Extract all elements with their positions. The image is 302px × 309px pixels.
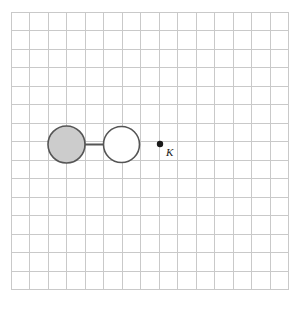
figure-canvas: K (0, 0, 302, 309)
point-k-label: K (165, 146, 174, 158)
white-circle (104, 127, 140, 163)
diagram-svg: K (0, 0, 302, 309)
figure-background (0, 0, 302, 309)
point-k-dot (157, 141, 163, 147)
gray-circle (48, 126, 85, 163)
